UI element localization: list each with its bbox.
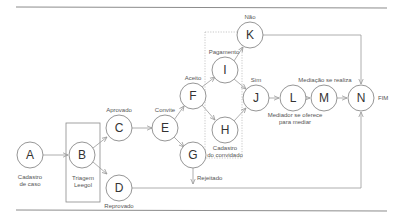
caption-F: Aceito	[185, 75, 202, 81]
svg-text:C: C	[115, 121, 124, 135]
svg-text:A: A	[26, 148, 34, 162]
svg-text:N: N	[357, 91, 366, 105]
edge-F-H	[202, 105, 215, 120]
svg-text:H: H	[221, 123, 230, 137]
edge-H-J	[234, 108, 246, 121]
caption-H-1: Cadastro	[213, 145, 238, 151]
node-K: K	[237, 22, 263, 48]
svg-text:I: I	[223, 63, 226, 77]
svg-text:K: K	[246, 28, 254, 42]
caption-I: Pagamento	[209, 49, 240, 55]
top-rule	[16, 7, 387, 8]
caption-rejected: Rejeitado	[197, 175, 223, 181]
caption-C: Aprovado	[106, 107, 132, 113]
node-A: A	[17, 142, 43, 168]
svg-text:E: E	[161, 121, 169, 135]
node-L: L	[280, 85, 306, 111]
caption-B-2: Leegol	[74, 182, 92, 188]
node-G: G	[180, 142, 206, 168]
svg-text:L: L	[290, 91, 297, 105]
edge-E-G	[174, 137, 184, 147]
caption-N: FIM	[378, 95, 388, 101]
edge-I-J	[234, 79, 246, 89]
edge-E-F	[174, 106, 184, 120]
svg-text:D: D	[115, 181, 124, 195]
caption-B-1: Triagem	[72, 175, 94, 181]
flowchart-diagram: A B C D E F G H I J K L M N Cadastro de …	[0, 0, 403, 224]
svg-text:F: F	[189, 89, 196, 103]
caption-E: Convite	[155, 107, 176, 113]
node-H: H	[212, 117, 238, 143]
svg-text:J: J	[253, 91, 259, 105]
node-C: C	[106, 115, 132, 141]
edge-F-I	[202, 77, 215, 87]
node-N: N	[348, 85, 374, 111]
node-B: B	[69, 142, 95, 168]
caption-L-1: Mediador se oferece	[268, 112, 323, 118]
node-I: I	[212, 57, 238, 83]
node-J: J	[243, 85, 269, 111]
caption-J: Sim	[251, 77, 261, 83]
caption-L-2: para mediar	[279, 119, 311, 125]
svg-text:M: M	[319, 91, 329, 105]
svg-text:G: G	[188, 148, 197, 162]
bottom-rule	[16, 210, 387, 211]
node-F: F	[180, 83, 206, 109]
caption-A-2: de caso	[19, 181, 41, 187]
svg-text:B: B	[78, 148, 86, 162]
captions: Cadastro de caso Triagem Leegol Aprovado…	[18, 14, 389, 209]
node-D: D	[106, 175, 132, 201]
caption-A-1: Cadastro	[18, 174, 43, 180]
caption-M: Mediação se realiza	[298, 77, 352, 83]
node-M: M	[311, 85, 337, 111]
node-E: E	[152, 115, 178, 141]
caption-D: Reprovado	[104, 203, 134, 209]
caption-K: Não	[244, 14, 256, 20]
caption-H-2: do convidado	[207, 152, 243, 158]
